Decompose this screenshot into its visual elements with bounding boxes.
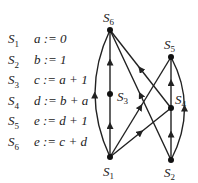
node-s5	[168, 54, 174, 60]
node-label-s2: S2	[164, 165, 175, 182]
node-s3	[107, 91, 113, 97]
node-label-s5: S5	[164, 37, 176, 54]
edge-s1-s4	[110, 108, 171, 157]
node-label-s1: S1	[103, 164, 114, 181]
dependency-graph: S6 S3 S1 S5 S4 S2	[0, 0, 198, 183]
node-label-s3: S3	[117, 89, 129, 106]
node-s1	[107, 154, 113, 160]
node-s4	[168, 105, 174, 111]
node-s6	[107, 27, 113, 33]
node-label-s6: S6	[103, 10, 115, 27]
node-label-s4: S4	[175, 92, 187, 109]
node-s2	[168, 157, 174, 163]
